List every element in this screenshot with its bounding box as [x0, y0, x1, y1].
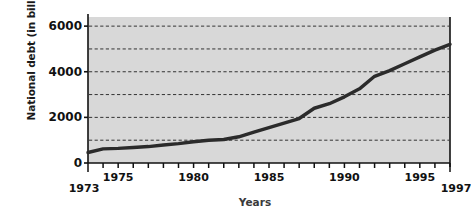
plot-background	[88, 17, 450, 163]
